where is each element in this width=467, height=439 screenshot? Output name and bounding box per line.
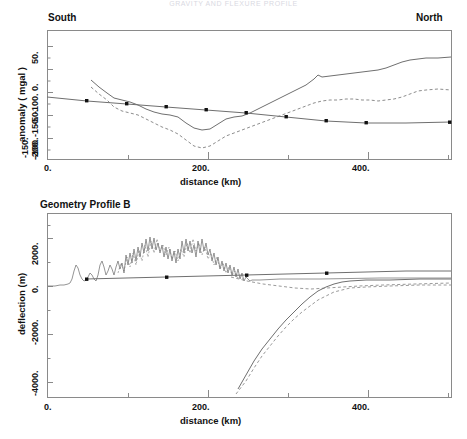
anomaly-plot-frame — [48, 31, 452, 160]
geometry-topography-dashed — [118, 239, 244, 281]
anomaly-ytick-neg100-text: -100. — [30, 93, 40, 114]
anomaly-panel: South North anomaly ( mgal ) 50. 0. -50.… — [0, 0, 467, 195]
anomaly-y-ticks — [48, 47, 54, 151]
geometry-plot-frame — [48, 214, 452, 398]
geometry-x-ticks — [129, 390, 449, 398]
anomaly-model-dashed-line — [91, 87, 451, 148]
geometry-flexure-dashed-line — [236, 285, 451, 394]
geometry-y-ticks — [48, 226, 54, 383]
anomaly-x-ticks — [129, 152, 449, 160]
figure-root: GRAVITY AND FLEXURE PROFILE South North … — [0, 0, 467, 439]
anomaly-ytick-stack: -200. -150. -100. — [30, 93, 40, 160]
anomaly-ytick-neg200-text: -200. — [30, 139, 40, 160]
geometry-flexure-solid-line — [238, 279, 451, 389]
anomaly-model-solid-line — [91, 57, 451, 130]
anomaly-ytick-neg150-text: -150. — [30, 116, 40, 137]
anomaly-plot-svg — [0, 0, 467, 195]
geometry-plot-svg — [0, 195, 467, 439]
geometry-panel: Geometry Profile B deflection (m) 2000. … — [0, 195, 467, 439]
